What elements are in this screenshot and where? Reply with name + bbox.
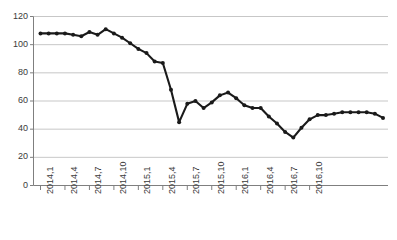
y-axis-tick-label: 20 — [2, 151, 28, 161]
data-point — [145, 51, 149, 55]
x-axis-tick-label: 2014,7 — [93, 166, 103, 194]
data-point — [291, 136, 295, 140]
data-point — [283, 130, 287, 134]
data-point — [316, 113, 320, 117]
x-axis-tick-label: 2014,10 — [118, 161, 128, 194]
plot-area — [0, 0, 397, 240]
data-point — [96, 33, 100, 37]
line-chart: 120100806040200 2014,12014,42014,72014,1… — [0, 0, 397, 240]
data-point — [63, 31, 67, 35]
data-point — [128, 41, 132, 45]
data-point — [218, 93, 222, 97]
y-axis-tick-label: 80 — [2, 67, 28, 77]
data-point — [234, 96, 238, 100]
data-point — [153, 60, 157, 64]
x-axis-tick-label: 2016,4 — [265, 166, 275, 194]
y-axis-tick-label: 40 — [2, 123, 28, 133]
data-point — [79, 34, 83, 38]
data-point — [332, 112, 336, 116]
data-point — [381, 116, 385, 120]
x-axis-tick-label: 2015,4 — [167, 166, 177, 194]
data-point — [210, 100, 214, 104]
data-point — [202, 106, 206, 110]
data-point — [177, 120, 181, 124]
data-point — [259, 106, 263, 110]
data-point — [308, 117, 312, 121]
chart-canvas — [0, 0, 397, 240]
data-point — [340, 110, 344, 114]
data-point — [169, 88, 173, 92]
data-point — [348, 110, 352, 114]
y-axis-tick-label: 120 — [2, 11, 28, 21]
y-axis-tick-label: 60 — [2, 95, 28, 105]
x-axis-tick-label: 2014,4 — [69, 166, 79, 194]
data-point — [87, 30, 91, 34]
data-point — [251, 106, 255, 110]
data-point — [185, 102, 189, 106]
data-point — [161, 61, 165, 65]
data-point — [193, 99, 197, 103]
data-point — [267, 114, 271, 118]
x-axis-tick-label: 2016,10 — [314, 161, 324, 194]
x-axis-tick-label: 2015,1 — [142, 166, 152, 194]
data-point — [71, 33, 75, 37]
data-point — [136, 47, 140, 51]
data-point — [324, 113, 328, 117]
x-axis-tick-label: 2016,1 — [240, 166, 250, 194]
data-point — [39, 31, 43, 35]
x-axis-tick-label: 2014,1 — [45, 166, 55, 194]
x-axis-tick-label: 2015,10 — [216, 161, 226, 194]
data-point — [226, 91, 230, 95]
data-point — [299, 126, 303, 130]
data-point — [357, 110, 361, 114]
data-point — [365, 110, 369, 114]
data-point — [242, 103, 246, 107]
data-point — [55, 31, 59, 35]
y-axis-tick-label: 100 — [2, 39, 28, 49]
x-axis-tick-label: 2015,7 — [191, 166, 201, 194]
data-point — [373, 112, 377, 116]
data-point — [104, 27, 108, 31]
data-point — [47, 31, 51, 35]
data-point — [112, 31, 116, 35]
data-point — [120, 36, 124, 40]
y-axis-tick-label: 0 — [2, 180, 28, 190]
x-axis-tick-label: 2016,7 — [289, 166, 299, 194]
series-line — [41, 29, 384, 137]
data-point — [275, 122, 279, 126]
